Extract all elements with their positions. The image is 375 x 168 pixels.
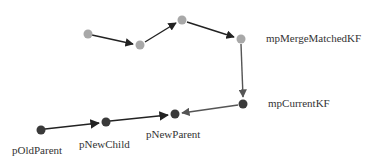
node-old-parent xyxy=(37,126,46,135)
edge-current-newparent xyxy=(182,105,238,113)
label-merge-matched-kf: mpMergeMatchedKF xyxy=(266,32,361,44)
label-new-parent: pNewParent xyxy=(146,128,200,140)
node-gray-3 xyxy=(178,16,187,25)
node-merge-matched-kf xyxy=(237,35,246,44)
edge-newchild-newparent xyxy=(110,115,168,121)
label-current-kf: mpCurrentKF xyxy=(268,97,330,109)
edges xyxy=(45,22,243,129)
node-gray-1 xyxy=(84,30,93,39)
edge-g1-g2 xyxy=(92,35,133,44)
edge-g3-g4 xyxy=(187,22,234,37)
node-new-child xyxy=(102,118,111,127)
node-gray-2 xyxy=(136,41,145,50)
label-old-parent: pOldParent xyxy=(12,144,62,156)
label-new-child: pNewChild xyxy=(79,138,130,150)
node-current-kf xyxy=(239,100,248,109)
edge-g2-g3 xyxy=(145,23,176,42)
edge-oldparent-newchild xyxy=(45,123,99,129)
node-new-parent xyxy=(171,110,180,119)
nodes xyxy=(37,16,248,135)
graph-canvas xyxy=(0,0,375,168)
edge-merge-current xyxy=(241,44,243,97)
